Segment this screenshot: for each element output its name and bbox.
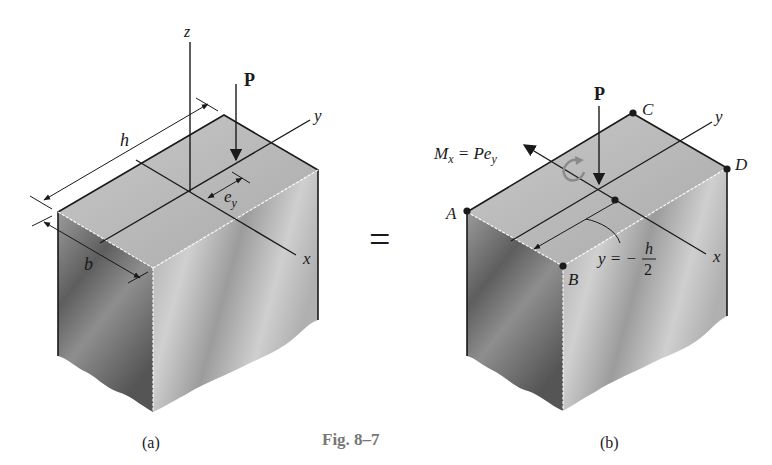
b-label: b [84,254,93,274]
figure-caption: Fig. 8–7 [322,430,380,449]
half-h-numerator: h [645,240,653,257]
x-axis-label-a: x [302,249,311,268]
moment-label: Mx = Pey [433,144,497,166]
point-C-label: C [642,100,654,119]
figure-canvas: z y x P h b ey (a) = Fig. 8–7 [0,0,772,465]
point-A [463,207,470,214]
h-label: h [120,130,129,150]
load-label-b: P [594,84,605,104]
load-label-a: P [244,70,255,90]
y-axis-label-b: y [713,107,723,126]
point-A-label: A [445,204,457,223]
y-axis-label-a: y [312,106,322,125]
point-D-label: D [734,155,748,174]
panel-b-label: (b) [600,434,619,452]
point-C [629,109,636,116]
panel-a: z y x P h b ey (a) [30,23,322,452]
point-B-label: B [568,270,579,289]
half-h-denominator: 2 [644,261,652,278]
point-D [723,165,730,172]
panel-a-label: (a) [142,434,160,452]
half-h-label: y = − [596,249,637,268]
z-axis-label-a: z [183,23,191,40]
x-axis-label-b: x [712,247,721,266]
panel-b: P y x A B C D Mx = Pey y = − h 2 (b) [433,84,748,452]
equals-sign: = [369,218,390,260]
point-B [559,262,566,269]
point-centroid-edge [611,196,618,203]
